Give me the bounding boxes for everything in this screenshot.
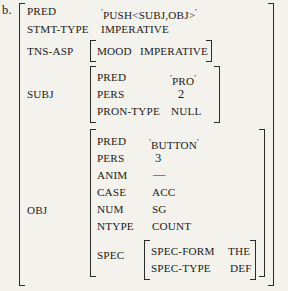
attribute-stmt-type: STMT-TYPE — [27, 24, 89, 35]
attribute-subj-pred: PRED — [97, 72, 126, 83]
tns-asp-bracket-left — [90, 40, 96, 62]
attribute-pred: PRED — [27, 6, 56, 17]
attribute-obj-anim: ANIM — [97, 170, 127, 181]
attribute-spec-type: SPEC-TYPE — [151, 263, 211, 274]
obj-bracket-left — [90, 129, 96, 277]
value-obj-anim: — — [153, 168, 166, 181]
obj-bracket-right — [259, 129, 265, 277]
attribute-subj-pers: PERS — [97, 89, 124, 100]
value-subj-pred-body: PRO — [172, 75, 194, 87]
value-spec-type: DEF — [230, 263, 252, 274]
spec-bracket-left — [144, 240, 150, 280]
value-obj-num: SG — [152, 204, 167, 215]
value-obj-ntype: COUNT — [152, 221, 191, 232]
item-label: b. — [2, 4, 12, 17]
attribute-subj-pron-type: PRON-TYPE — [97, 106, 160, 117]
outer-bracket-left — [19, 3, 25, 286]
attribute-obj: OBJ — [27, 205, 47, 216]
value-subj-pers: 2 — [178, 88, 184, 101]
attribute-tns-asp: TNS-ASP — [27, 46, 73, 57]
subj-bracket-right — [214, 66, 220, 123]
value-obj-pers: 3 — [155, 152, 161, 165]
value-obj-case: ACC — [152, 187, 175, 198]
close-quote-icon: ′ — [194, 73, 196, 83]
value-pred-body: PUSH<SUBJ,OBJ> — [103, 9, 195, 21]
f-structure-figure: b. PRED ′PUSH<SUBJ,OBJ>′ STMT-TYPE IMPER… — [0, 0, 288, 291]
attribute-subj: SUBJ — [27, 89, 54, 100]
subj-bracket-left — [90, 66, 96, 123]
attribute-obj-spec: SPEC — [97, 250, 124, 261]
attribute-mood: MOOD — [97, 46, 132, 57]
attribute-obj-case: CASE — [97, 187, 126, 198]
value-obj-pred: ′BUTTON′ — [149, 136, 199, 152]
attribute-obj-pers: PERS — [97, 153, 124, 164]
value-mood: IMPERATIVE — [140, 46, 208, 57]
value-subj-pred: ′PRO′ — [170, 72, 196, 88]
attribute-obj-num: NUM — [97, 204, 124, 215]
value-subj-pron-type: NULL — [171, 106, 201, 117]
close-quote-icon: ′ — [197, 137, 199, 147]
value-pred: ′PUSH<SUBJ,OBJ>′ — [101, 6, 197, 22]
value-stmt-type: IMPERATIVE — [101, 24, 169, 35]
attribute-obj-ntype: NTYPE — [97, 221, 134, 232]
attribute-spec-form: SPEC-FORM — [151, 246, 215, 257]
outer-bracket-right — [268, 3, 274, 286]
attribute-obj-pred: PRED — [97, 136, 126, 147]
value-spec-form: THE — [228, 246, 250, 257]
value-obj-pred-body: BUTTON — [151, 139, 197, 151]
close-quote-icon: ′ — [195, 7, 197, 17]
